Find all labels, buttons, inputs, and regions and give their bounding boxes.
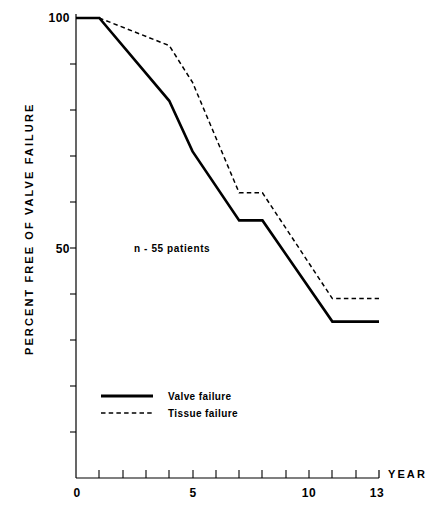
series-valve-failure-line: [76, 18, 379, 322]
legend-label-valve-failure: Valve failure: [168, 391, 232, 402]
sample-size-annotation: n - 55 patients: [134, 243, 210, 254]
y-tick-marks: [70, 64, 76, 432]
survival-curve-chart: 100 50 0 5 10 13 YEAR PERCENT FREE OF VA…: [0, 0, 434, 514]
x-tick-label-10: 10: [302, 486, 316, 500]
y-axis-title: PERCENT FREE OF VALVE FAILURE: [23, 103, 35, 355]
x-tick-label-13: 13: [370, 486, 384, 500]
legend-label-tissue-failure: Tissue failure: [168, 408, 238, 419]
x-tick-marks: [99, 470, 356, 478]
x-axis-title: YEAR: [388, 468, 427, 480]
series-tissue-failure-line: [76, 18, 379, 299]
chart-legend: Valve failure Tissue failure: [101, 391, 238, 419]
y-tick-label-50: 50: [56, 242, 70, 256]
x-tick-label-5: 5: [189, 486, 196, 500]
x-tick-label-0: 0: [73, 486, 80, 500]
figure-panel: 100 50 0 5 10 13 YEAR PERCENT FREE OF VA…: [0, 0, 434, 514]
y-tick-label-100: 100: [48, 11, 70, 25]
